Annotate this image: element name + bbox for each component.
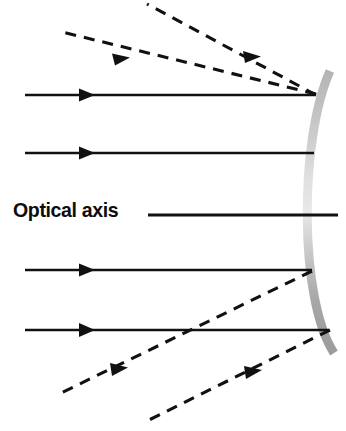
optical-axis-label: Optical axis <box>13 198 118 222</box>
reflected-ray-3-line <box>61 271 312 393</box>
reflected-ray-4 <box>149 330 330 420</box>
incident-ray-1-arrowhead <box>79 89 95 102</box>
incident-ray-2 <box>25 147 314 160</box>
incident-ray-3-arrowhead <box>79 264 95 277</box>
incident-ray-2-arrowhead <box>79 147 95 160</box>
mirror-arc-group <box>307 71 334 353</box>
incident-ray-4 <box>25 323 329 337</box>
reflected-ray-2-line <box>147 4 316 95</box>
concave-mirror-arc <box>307 71 334 353</box>
incident-ray-3 <box>25 264 312 277</box>
incident-ray-4-arrowhead <box>79 323 95 337</box>
reflected-ray-1-arrowhead <box>112 54 130 66</box>
incident-ray-1 <box>25 89 316 102</box>
reflected-ray-1 <box>62 32 316 94</box>
reflected-ray-2-arrowhead <box>243 51 261 63</box>
optics-ray-diagram: Optical axis <box>0 0 346 431</box>
reflected-ray-2 <box>147 4 316 95</box>
reflected-ray-1-line <box>62 32 316 94</box>
reflected-ray-3 <box>61 271 312 393</box>
reflected-ray-4-line <box>149 330 330 420</box>
